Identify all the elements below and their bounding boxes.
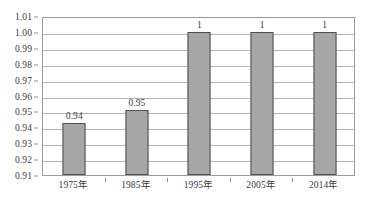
bar[interactable] <box>251 32 274 175</box>
y-tick-mark <box>34 176 38 177</box>
y-tick-mark <box>34 17 38 18</box>
bar-value-label: 0.94 <box>66 111 83 121</box>
y-axis: 1.011.000.990.980.970.960.950.940.930.92… <box>0 17 38 176</box>
y-tick-mark <box>34 96 38 97</box>
y-tick-label: 1.00 <box>15 28 32 38</box>
y-tick-mark <box>34 144 38 145</box>
y-tick-mark <box>34 128 38 129</box>
plot-area: 0.940.95111 <box>42 17 355 176</box>
bar-value-label: 1 <box>322 20 327 30</box>
y-tick-label: 0.93 <box>15 139 32 149</box>
y-tick-mark <box>34 80 38 81</box>
y-tick-label: 1.01 <box>15 12 32 22</box>
x-tick-label: 1975年 <box>59 180 89 191</box>
y-tick-mark <box>34 64 38 65</box>
bar-group: 1 <box>231 18 294 175</box>
x-tick-mark <box>167 178 168 182</box>
bar[interactable] <box>125 110 148 175</box>
y-tick-label: 0.94 <box>15 123 32 133</box>
y-tick-label: 0.96 <box>15 92 32 102</box>
x-tick-label: 1985年 <box>121 180 151 191</box>
bar-value-label: 1 <box>197 20 202 30</box>
bar-value-label: 1 <box>260 20 265 30</box>
x-tick-label: 1995年 <box>184 180 214 191</box>
bar[interactable] <box>63 123 86 175</box>
bar-group: 0.95 <box>106 18 169 175</box>
y-tick-mark <box>34 112 38 113</box>
bar[interactable] <box>313 32 336 175</box>
bar-chart: 1.011.000.990.980.970.960.950.940.930.92… <box>0 0 373 211</box>
y-tick-label: 0.99 <box>15 44 32 54</box>
x-axis: 1975年1985年1995年2005年2014年 <box>42 178 355 198</box>
bar[interactable] <box>188 32 211 175</box>
bar-group: 1 <box>293 18 356 175</box>
y-tick-mark <box>34 160 38 161</box>
y-tick-label: 0.98 <box>15 60 32 70</box>
bar-group: 1 <box>168 18 231 175</box>
x-tick-mark <box>230 178 231 182</box>
y-tick-label: 0.95 <box>15 107 32 117</box>
y-tick-label: 0.91 <box>15 171 32 181</box>
y-tick-label: 0.92 <box>15 155 32 165</box>
y-tick-label: 0.97 <box>15 76 32 86</box>
y-tick-mark <box>34 48 38 49</box>
x-tick-label: 2014年 <box>309 180 339 191</box>
bar-group: 0.94 <box>43 18 106 175</box>
bar-value-label: 0.95 <box>128 98 145 108</box>
x-tick-mark <box>105 178 106 182</box>
x-tick-label: 2005年 <box>246 180 276 191</box>
y-tick-mark <box>34 32 38 33</box>
x-tick-mark <box>292 178 293 182</box>
